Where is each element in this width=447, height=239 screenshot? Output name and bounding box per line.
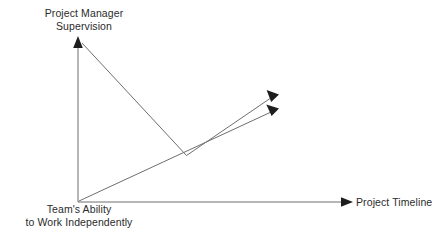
y-axis-label: Project Manager Supervision [0, 7, 168, 33]
origin-label-line-2: to Work Independently [0, 216, 158, 229]
y-axis-label-line-1: Project Manager [0, 7, 168, 20]
team-ability-trend-line-lower [79, 113, 270, 202]
y-axis-arrowhead-icon [73, 36, 83, 48]
supervision-trend-line [82, 43, 187, 156]
team-ability-trend-line-upper [187, 99, 271, 156]
origin-label-line-1: Team's Ability [0, 203, 158, 216]
y-axis-label-line-2: Supervision [0, 20, 168, 33]
diagram-canvas: Project Manager Supervision Team's Abili… [0, 0, 447, 239]
team-ability-lower-arrowhead-icon [266, 105, 279, 117]
origin-label: Team's Ability to Work Independently [0, 203, 158, 229]
x-axis-arrowhead-icon [341, 197, 353, 206]
x-axis-label: Project Timeline [356, 196, 432, 209]
